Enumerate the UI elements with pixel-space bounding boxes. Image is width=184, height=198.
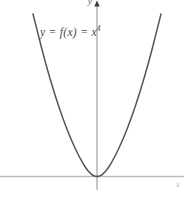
- equation-base: y = f(x) = x: [40, 26, 97, 38]
- x-axis-label: x: [176, 180, 180, 189]
- y-axis-label: y: [88, 0, 92, 6]
- equation-exponent: 4: [97, 24, 101, 33]
- quartic-function-figure: y x y = f(x) = x4: [0, 0, 184, 198]
- y-axis-arrow-icon: [94, 1, 100, 7]
- curve-equation-label: y = f(x) = x4: [40, 25, 101, 38]
